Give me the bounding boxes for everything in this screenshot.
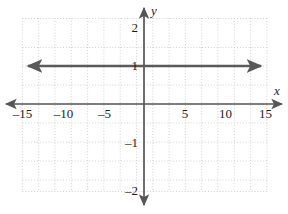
x-tick-label: 10	[219, 106, 232, 121]
x-tick-label: 5	[182, 106, 189, 121]
coordinate-plane-graph: –15 –10 –5 5 10 15 2 1 –1 –2 x y	[0, 0, 288, 214]
y-axis-label: y	[149, 3, 157, 18]
y-tick-label: 1	[132, 58, 139, 73]
y-tick-label: 2	[132, 20, 139, 35]
y-tick-label: –1	[124, 135, 138, 150]
x-tick-label: –5	[97, 106, 111, 121]
x-tick-label: 15	[259, 106, 272, 121]
graph-canvas: –15 –10 –5 5 10 15 2 1 –1 –2 x y	[0, 0, 288, 214]
y-tick-label: –2	[124, 183, 138, 198]
x-tick-label: –10	[53, 106, 74, 121]
x-axis-label: x	[273, 83, 280, 98]
x-tick-label: –15	[12, 106, 33, 121]
